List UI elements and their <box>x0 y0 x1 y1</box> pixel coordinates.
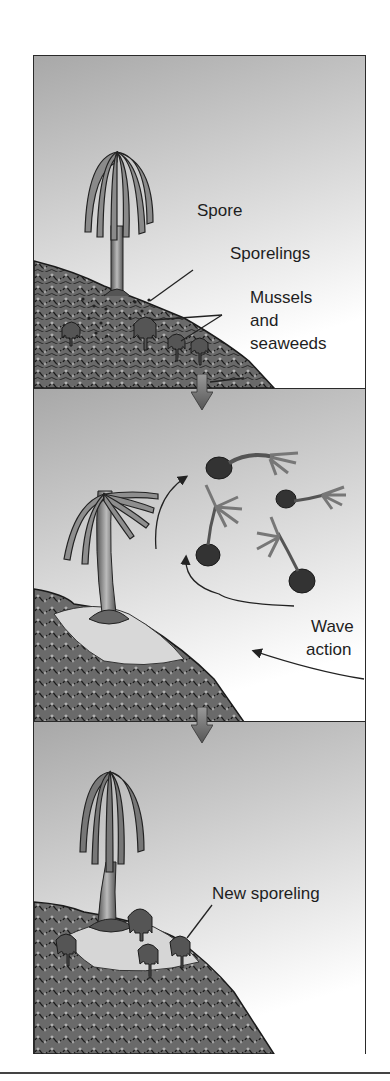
panel-stage-2: Wave action <box>34 388 365 722</box>
label-and: and <box>250 311 278 331</box>
label-sporelings: Sporelings <box>230 244 310 264</box>
label-spore: Spore <box>197 201 242 221</box>
label-action: action <box>306 640 351 660</box>
stage-2-illustration <box>34 389 365 722</box>
label-wave: Wave <box>311 617 354 637</box>
bottom-rule <box>0 1072 390 1074</box>
panel-stage-3: New sporeling <box>34 721 365 1054</box>
down-arrow-icon <box>191 374 213 410</box>
label-seaweeds: seaweeds <box>250 334 327 354</box>
diagram-frame: Spore Sporelings Mussels and seaweeds <box>33 55 366 1054</box>
label-mussels: Mussels <box>250 288 312 308</box>
down-arrow-icon <box>191 707 213 743</box>
panel-stage-1: Spore Sporelings Mussels and seaweeds <box>34 56 365 388</box>
label-new-sporeling: New sporeling <box>212 884 320 904</box>
